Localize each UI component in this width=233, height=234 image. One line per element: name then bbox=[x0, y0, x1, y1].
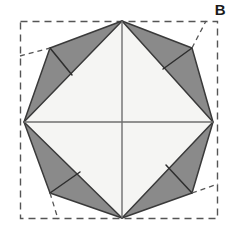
folded-corner-tip-top-left bbox=[20, 48, 50, 56]
folded-corner-tip-bottom-right bbox=[192, 184, 218, 193]
folded-corner-tip-top-right bbox=[192, 21, 206, 48]
folded-corner-tip-bottom-left bbox=[50, 193, 58, 219]
panel-label-b: B bbox=[215, 1, 226, 19]
figure-drawing bbox=[0, 0, 233, 234]
figure-panel: B bbox=[0, 0, 233, 234]
